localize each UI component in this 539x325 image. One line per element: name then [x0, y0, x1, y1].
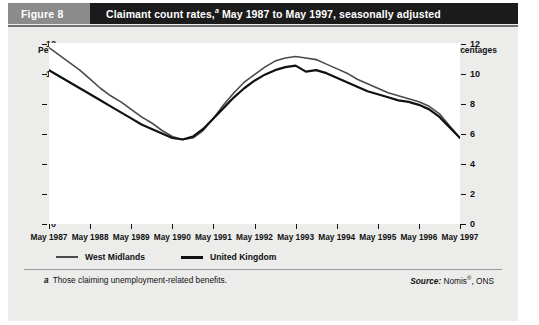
x-tick-label: May 1995 [359, 232, 396, 242]
x-tick-mark [296, 224, 297, 229]
y-tick-label-right-10: 10 [470, 70, 494, 79]
chart-area: Percentages Percentages 0 2 4 6 8 10 12 … [8, 27, 518, 277]
y-tick-mark-left-0 [42, 224, 47, 225]
y-tick-mark-right-4 [461, 164, 466, 165]
footer-divider [24, 269, 502, 270]
figure-header: Figure 8 Claimant count rates,a May 1987… [8, 3, 518, 24]
x-tick-mark [255, 224, 256, 229]
x-tick-label: May 1987 [31, 232, 68, 242]
x-tick-label: May 1989 [113, 232, 150, 242]
y-tick-mark-left-2 [42, 194, 47, 195]
legend-item-united-kingdom: United Kingdom [181, 252, 276, 262]
y-tick-mark-left-4 [42, 164, 47, 165]
series-canvas [49, 43, 460, 224]
figure-panel: Figure 8 Claimant count rates,a May 1987… [8, 3, 518, 321]
y-tick-mark-right-2 [461, 194, 466, 195]
figure-number-badge: Figure 8 [8, 3, 90, 24]
source-prefix: Source: [410, 276, 441, 286]
plot-area [49, 43, 460, 224]
legend-label-united-kingdom: United Kingdom [210, 252, 276, 262]
line-united-kingdom [49, 66, 460, 140]
y-tick-label-right-2: 2 [470, 190, 494, 199]
y-tick-mark-left-8 [42, 104, 47, 105]
x-tick-label: May 1993 [277, 232, 314, 242]
source-text: Nomis [441, 276, 467, 286]
legend-label-west-midlands: West Midlands [85, 252, 145, 262]
x-tick-label: May 1994 [318, 232, 355, 242]
y-tick-mark-left-12 [42, 44, 47, 45]
y-tick-label-right-4: 4 [470, 160, 494, 169]
figure-footer: aThose claiming unemployment-related ben… [8, 275, 518, 295]
y-tick-mark-left-10 [42, 74, 47, 75]
y-tick-mark-right-8 [461, 104, 466, 105]
chart-legend: West Midlands United Kingdom [8, 247, 518, 267]
x-tick-mark [213, 224, 214, 229]
y-tick-label-right-0: 0 [470, 220, 494, 229]
figure-title: Claimant count rates,a May 1987 to May 1… [90, 7, 441, 20]
x-tick-mark [460, 224, 461, 229]
x-tick-mark [90, 224, 91, 229]
x-axis-ticks [49, 224, 460, 230]
y-tick-label-right-6: 6 [470, 130, 494, 139]
x-tick-mark [172, 224, 173, 229]
x-tick-mark [49, 224, 50, 229]
source-note: Source: Nomis®, ONS [410, 275, 494, 286]
y-tick-label-right-12: 12 [470, 40, 494, 49]
footnote-text: Those claiming unemployment-related bene… [53, 275, 227, 285]
legend-swatch-west-midlands [56, 256, 78, 258]
x-axis-labels: May 1987May 1988May 1989May 1990May 1991… [8, 232, 518, 246]
figure-title-main: Claimant count rates, [106, 8, 215, 20]
footnote: aThose claiming unemployment-related ben… [44, 275, 227, 285]
x-tick-label: May 1988 [72, 232, 109, 242]
x-tick-label: May 1991 [195, 232, 232, 242]
y-tick-mark-left-6 [42, 134, 47, 135]
footnote-marker: a [44, 275, 49, 285]
x-tick-label: May 1992 [236, 232, 273, 242]
y-tick-mark-right-0 [461, 224, 466, 225]
x-tick-mark [419, 224, 420, 229]
x-tick-mark [337, 224, 338, 229]
y-tick-mark-right-10 [461, 74, 466, 75]
y-tick-mark-right-12 [461, 44, 466, 45]
x-tick-label: May 1990 [154, 232, 191, 242]
x-tick-mark [131, 224, 132, 229]
x-tick-label: May 1997 [442, 232, 479, 242]
y-tick-mark-right-6 [461, 134, 466, 135]
x-tick-mark [378, 224, 379, 229]
source-suffix: , ONS [471, 276, 494, 286]
x-tick-label: May 1996 [400, 232, 437, 242]
legend-item-west-midlands: West Midlands [56, 252, 145, 262]
figure-screenshot: Figure 8 Claimant count rates,a May 1987… [0, 0, 539, 325]
figure-title-rest: May 1987 to May 1997, seasonally adjuste… [219, 8, 441, 20]
line-west-midlands [49, 48, 460, 140]
y-tick-label-right-8: 8 [470, 100, 494, 109]
legend-swatch-united-kingdom [181, 256, 203, 259]
